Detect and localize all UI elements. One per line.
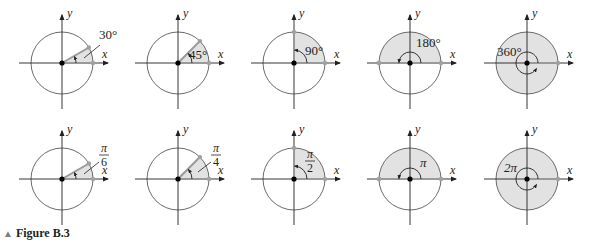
initial-point [91,177,95,181]
initial-point [323,61,327,65]
angle-panel-radians-180: xyπ [367,122,456,225]
origin-point [59,60,64,65]
terminal-point [198,155,202,159]
y-axis-label: y [531,6,538,20]
x-axis-label: x [566,47,573,61]
fraction-denominator: 2 [307,161,313,175]
angle-panel-degrees-45: xy45° [135,6,224,109]
angle-label: 90° [305,43,323,58]
origin-point [59,176,64,181]
angle-label: 30° [99,27,117,42]
angle-label: 45° [189,47,207,62]
fraction-denominator: 4 [213,155,219,169]
figure-b3: xy30°xy45°xy90°xy180°xy360°xyπ6xyπ4xyπ2x… [0,0,594,243]
terminal-point [292,30,296,34]
angle-panel-degrees-90: xy90° [251,6,340,109]
y-axis-label: y [531,122,538,136]
x-axis-label: x [449,47,456,61]
initial-point [439,61,443,65]
angle-panel-radians-90: xyπ2 [251,122,340,225]
fraction-numerator: π [307,147,314,161]
x-axis-label: x [449,163,456,177]
origin-point [524,176,529,181]
triangle-marker-icon: ▲ [3,228,13,239]
fraction-numerator: π [213,141,220,155]
initial-point [207,61,211,65]
initial-point [207,177,211,181]
y-axis-label: y [414,122,421,136]
angle-panel-radians-30: xyπ6 [19,122,109,225]
angle-panel-degrees-360: xy360° [484,6,573,109]
angle-panel-degrees-180: xy180° [367,6,456,109]
initial-point [556,177,560,181]
y-axis-label: y [66,6,73,20]
origin-point [291,60,296,65]
angle-label: 180° [416,35,441,50]
angle-panel-radians-45: xyπ4 [135,122,224,225]
y-axis-label: y [182,122,189,136]
caption-text: Figure B.3 [16,226,70,240]
initial-point [439,177,443,181]
fraction-numerator: π [101,141,108,155]
angle-label: π [420,155,427,170]
angle-panel-degrees-30: xy30° [19,6,117,109]
figure-caption: ▲Figure B.3 [3,226,70,241]
initial-point [323,177,327,181]
y-axis-label: y [298,6,305,20]
terminal-point [377,61,381,65]
terminal-point [198,39,202,43]
y-axis-label: y [66,122,73,136]
x-axis-label: x [333,163,340,177]
angle-panel-radians-360: xy2π [484,122,573,225]
initial-point [91,61,95,65]
angle-label: 360° [497,44,522,59]
terminal-point [377,177,381,181]
initial-point [556,61,560,65]
angle-label: 2π [504,160,518,175]
terminal-point [292,146,296,150]
y-axis-label: y [298,122,305,136]
terminal-point [87,161,91,165]
y-axis-label: y [182,6,189,20]
y-axis-label: y [414,6,421,20]
fraction-denominator: 6 [101,155,107,169]
x-axis-label: x [566,163,573,177]
origin-point [175,176,180,181]
origin-point [291,176,296,181]
origin-point [407,60,412,65]
origin-point [407,176,412,181]
x-axis-label: x [101,47,108,61]
origin-point [524,60,529,65]
x-axis-label: x [333,47,340,61]
terminal-point [87,45,91,49]
x-axis-label: x [217,47,224,61]
origin-point [175,60,180,65]
